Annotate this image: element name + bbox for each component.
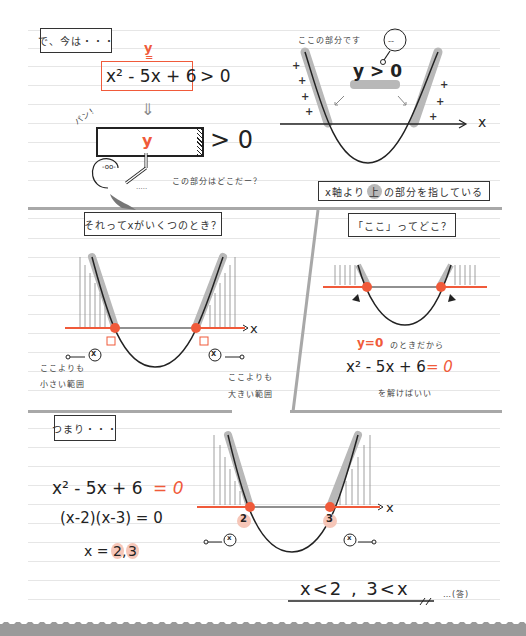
eq3-prefix: x = (84, 543, 108, 559)
graph4-x-axis-label: x (386, 500, 394, 515)
graph4-bubble-x: x (227, 534, 232, 542)
eq2: (x-2)(x-3) = 0 (60, 509, 163, 527)
plus-icon: + (292, 60, 300, 71)
section1-conclusion: x軸より 上 の部分を指している (318, 181, 490, 201)
solve-text: を解けばいい (378, 387, 432, 398)
section4-label: つまり・・・ (54, 415, 116, 441)
answer: x<2 , 3<x (300, 578, 410, 599)
section1-label: で、今は・・・ (40, 28, 112, 53)
section2-label-text: それってxがいくつのとき？ (84, 217, 223, 232)
section4-label-text: つまり・・・ (52, 421, 118, 436)
section2-label: それってxがいくつのとき？ (84, 212, 222, 236)
plus-icon: + (305, 106, 313, 117)
block-inequality: > 0 (210, 126, 253, 154)
graph4-root1: 2 (240, 513, 247, 524)
answer-underline (288, 598, 438, 606)
svg-text:-oo-: -oo- (102, 163, 116, 171)
section1-caption: この部分はどこだー？ (172, 175, 262, 186)
graph2-parabola (60, 245, 260, 375)
right-note-line1: ここよりも (228, 371, 273, 382)
graph1-parabola: ｰｰ (280, 20, 520, 180)
svg-text:.....: ..... (136, 183, 147, 191)
plus-icon: + (440, 79, 448, 90)
plus-icon: + (301, 91, 309, 102)
down-arrow-icon: ⇓ (141, 100, 154, 119)
svg-text:ｰｰ: ｰｰ (388, 37, 394, 44)
condition-text: のときだから (390, 339, 444, 350)
left-note-line2: 小さい範囲 (40, 378, 85, 389)
block-y: y (142, 131, 152, 150)
section1-label-text: で、今は・・・ (38, 33, 115, 48)
section3-label: 「ここ」ってどこ？ (348, 213, 456, 237)
left-note-line1: ここよりも (40, 362, 85, 373)
eq1-right: = 0 (153, 478, 183, 498)
plus-icon: + (429, 111, 437, 122)
notebook-page: で、今は・・・ y = x² - 5x + 6 > 0 ⇓ パン! y > 0 … (0, 0, 526, 636)
section3-label-text: 「ここ」ってどこ？ (353, 218, 452, 233)
y-equals-zero: y=0 (357, 336, 383, 350)
conclusion-suffix: の部分を指している (384, 184, 483, 199)
plus-icon: + (436, 96, 444, 107)
section3-equation-right: = 0 (426, 358, 453, 376)
right-note-line2: 大きい範囲 (228, 388, 273, 399)
graph2-bubble-x: x (91, 349, 96, 358)
conclusion-highlight: 上 (367, 184, 382, 199)
graph4-bubble-x: x (347, 534, 352, 542)
expression: x² - 5x + 6 (106, 66, 197, 86)
answer-suffix: …(答) (443, 588, 469, 599)
plus-icon: + (298, 75, 306, 86)
eq1-left: x² - 5x + 6 (52, 478, 143, 498)
graph1-x-axis-label: x (478, 114, 486, 130)
graph3-parabola (315, 260, 495, 330)
section3-equation-left: x² - 5x + 6 (346, 358, 426, 376)
graph1-highlight: y > 0 (353, 61, 402, 81)
bottom-edge (0, 624, 526, 636)
graph4-root2: 3 (326, 513, 333, 524)
graph2-bubble-x: x (211, 349, 216, 358)
graph2-x-axis-label: x (250, 321, 258, 336)
eq3-root2: 3 (126, 543, 139, 559)
inequality: > 0 (200, 66, 230, 86)
graph4-parabola (200, 425, 400, 565)
conclusion-prefix: x軸より (325, 184, 365, 199)
